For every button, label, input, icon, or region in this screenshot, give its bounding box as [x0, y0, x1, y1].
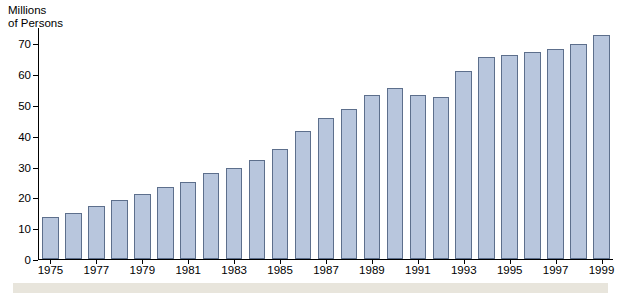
bar [318, 118, 335, 259]
bar [249, 160, 266, 259]
bar [157, 187, 174, 259]
bar [593, 35, 610, 259]
y-tick-mark [33, 198, 38, 199]
bar [88, 206, 105, 259]
bar [547, 49, 564, 259]
y-tick-label: 40 [18, 131, 31, 143]
bar [524, 52, 541, 259]
bar [203, 173, 220, 259]
bar [134, 194, 151, 259]
y-tick-label: 0 [25, 254, 31, 266]
y-tick-label: 10 [18, 223, 31, 235]
y-tick-mark [33, 106, 38, 107]
x-tick-label: 1995 [497, 264, 523, 276]
y-tick-mark [33, 168, 38, 169]
bar [387, 88, 404, 259]
x-tick-label: 1987 [313, 264, 339, 276]
bar [455, 71, 472, 259]
x-tick-label: 1997 [543, 264, 569, 276]
bar [111, 200, 128, 259]
y-axis-title: Millions of Persons [8, 4, 63, 30]
bar [65, 213, 82, 260]
y-tick-label: 60 [18, 69, 31, 81]
bar [478, 57, 495, 259]
x-tick-label: 1991 [405, 264, 431, 276]
y-tick-label: 50 [18, 100, 31, 112]
x-tick-label: 1993 [451, 264, 477, 276]
bar [295, 131, 312, 259]
bar [364, 95, 381, 259]
y-tick-mark [33, 260, 38, 261]
plot-area: 010203040506070 197519771979198119831985… [38, 28, 613, 260]
x-tick-label: 1981 [175, 264, 201, 276]
y-tick-mark [33, 75, 38, 76]
x-tick-label: 1975 [38, 264, 64, 276]
bar [180, 182, 197, 259]
footer-band [13, 283, 608, 293]
x-tick-label: 1999 [589, 264, 615, 276]
bar [341, 109, 358, 259]
x-tick-label: 1979 [130, 264, 156, 276]
y-tick-label: 20 [18, 192, 31, 204]
y-tick-label: 30 [18, 162, 31, 174]
y-tick-mark [33, 44, 38, 45]
bar [272, 149, 289, 259]
y-tick-label: 70 [18, 38, 31, 50]
y-tick-mark [33, 137, 38, 138]
y-tick-mark [33, 229, 38, 230]
bar [226, 168, 243, 259]
x-tick-label: 1989 [359, 264, 385, 276]
bar-chart: Millions of Persons 010203040506070 1975… [0, 0, 621, 293]
x-tick-label: 1977 [84, 264, 110, 276]
bar [501, 55, 518, 260]
bar-series [39, 28, 613, 259]
bar [570, 44, 587, 259]
bar [433, 97, 450, 259]
bar [42, 217, 59, 259]
bar [410, 95, 427, 259]
x-tick-label: 1985 [267, 264, 293, 276]
x-tick-label: 1983 [221, 264, 247, 276]
